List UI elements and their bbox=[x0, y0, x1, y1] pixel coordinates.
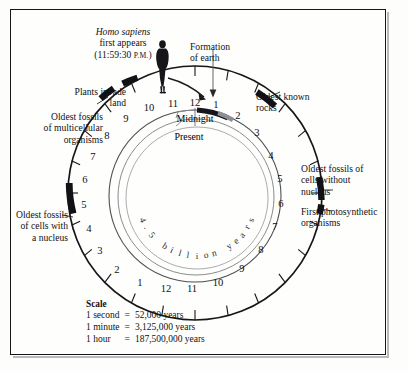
hour-number-12-bottom: 12 bbox=[161, 283, 172, 294]
scale-equals: = bbox=[125, 322, 135, 334]
without-nucleus-line3: nucleus bbox=[301, 186, 363, 197]
scale-equals: = bbox=[125, 334, 135, 346]
scale-title: Scale bbox=[86, 299, 205, 309]
annotation-homo-sapiens: Homo sapiens first appears (11:59:30 P.M… bbox=[76, 26, 170, 61]
annotation-cells-with-nucleus: Oldest fossils of cells with a nucleus bbox=[0, 209, 68, 243]
marker-cells-with-nucleus bbox=[69, 183, 73, 214]
hour-number-1a: 1 bbox=[213, 99, 218, 110]
photosynthetic-line1: First photosynthetic bbox=[301, 206, 377, 217]
scale-equals: = bbox=[125, 310, 135, 322]
scale-row: 1 second=52,000 years bbox=[86, 310, 205, 322]
formation-line2: of earth bbox=[190, 52, 230, 63]
hour-number-5b: 5 bbox=[81, 199, 86, 210]
scale-value: 52,000 years bbox=[135, 310, 205, 322]
photosynthetic-line2: organisms bbox=[301, 217, 377, 228]
hour-number-5a: 5 bbox=[277, 173, 282, 184]
hour-number-9b: 9 bbox=[123, 113, 128, 124]
hour-number-2b: 2 bbox=[114, 264, 119, 275]
hour-number-12-top: 12 bbox=[190, 97, 201, 108]
annotation-multicellular: Oldest fossils of multicellular organism… bbox=[8, 111, 103, 145]
plants-line1: Plants invade bbox=[26, 86, 126, 97]
hour-number-3b: 3 bbox=[97, 245, 102, 256]
hour-number-6a: 6 bbox=[278, 198, 283, 209]
scale-unit: 1 second bbox=[86, 310, 125, 322]
without-nucleus-line2: cells without bbox=[301, 174, 363, 185]
hour-number-10a: 10 bbox=[213, 277, 224, 288]
scale-block: Scale 1 second=52,000 years1 minute=3,12… bbox=[86, 299, 205, 346]
homo-sapiens-line1: Homo sapiens bbox=[76, 26, 170, 37]
nucleus-cells-line3: a nucleus bbox=[0, 232, 68, 243]
multicellular-line2: of multicellular bbox=[8, 122, 103, 133]
hour-number-7b: 7 bbox=[90, 151, 95, 162]
homo-sapiens-time-open: (11:59:30 bbox=[94, 49, 133, 60]
hour-number-10b: 10 bbox=[144, 102, 155, 113]
hour-number-4b: 4 bbox=[86, 223, 91, 234]
annotation-plants-invade-land: Plants invade land bbox=[26, 86, 126, 109]
homo-sapiens-time-close: ) bbox=[148, 49, 151, 60]
hour-number-9a: 9 bbox=[239, 263, 244, 274]
annotation-formation-of-earth: Formation of earth bbox=[190, 41, 230, 64]
annotation-oldest-rocks: Oldest known rocks bbox=[256, 91, 310, 114]
marker-plants-invade-land bbox=[123, 78, 138, 84]
diagram-page: 12 1 2 3 4 5 6 7 8 9 10 11 12 1 2 3 4 5 … bbox=[0, 0, 408, 372]
scale-value: 187,500,000 years bbox=[135, 334, 205, 346]
annotation-cells-without-nucleus: Oldest fossils of cells without nucleus bbox=[301, 163, 363, 197]
hour-number-1b: 1 bbox=[137, 277, 142, 288]
hour-number-11a: 11 bbox=[187, 283, 197, 294]
oldest-rocks-line2: rocks bbox=[256, 102, 310, 113]
nucleus-cells-line1: Oldest fossils bbox=[0, 209, 68, 220]
arc-char: i bbox=[196, 251, 199, 261]
without-nucleus-line1: Oldest fossils of bbox=[301, 163, 363, 174]
hour-number-3a: 3 bbox=[254, 127, 259, 138]
multicellular-line1: Oldest fossils bbox=[8, 111, 103, 122]
annotation-photosynthetic: First photosynthetic organisms bbox=[301, 206, 377, 229]
oldest-rocks-line1: Oldest known bbox=[256, 91, 310, 102]
scale-row: 1 hour=187,500,000 years bbox=[86, 334, 205, 346]
plants-line2: land bbox=[26, 97, 126, 108]
formation-line1: Formation bbox=[190, 41, 230, 52]
hour-number-8b: 8 bbox=[104, 130, 109, 141]
homo-sapiens-line2: first appears bbox=[76, 37, 170, 48]
scale-unit: 1 hour bbox=[86, 334, 125, 346]
homo-sapiens-line3: (11:59:30 P.M.) bbox=[76, 49, 170, 61]
hour-number-2a: 2 bbox=[235, 110, 240, 121]
hour-number-6b: 6 bbox=[82, 174, 87, 185]
hour-number-8a: 8 bbox=[258, 244, 263, 255]
homo-sapiens-arrow bbox=[168, 78, 204, 97]
midnight-label: Midnight bbox=[176, 113, 213, 124]
multicellular-line3: organisms bbox=[8, 134, 103, 145]
scale-unit: 1 minute bbox=[86, 322, 125, 334]
scale-row: 1 minute=3,125,000 years bbox=[86, 322, 205, 334]
hour-number-7a: 7 bbox=[272, 221, 277, 232]
hour-number-11b: 11 bbox=[168, 98, 178, 109]
scale-value: 3,125,000 years bbox=[135, 322, 205, 334]
arc-char: o bbox=[203, 250, 209, 261]
homo-sapiens-time-pm: P.M. bbox=[134, 51, 149, 60]
present-label: Present bbox=[175, 131, 204, 142]
formation-arrow-head bbox=[210, 90, 217, 98]
spiral-inner-ring bbox=[126, 127, 268, 269]
scale-table: 1 second=52,000 years1 minute=3,125,000 … bbox=[86, 310, 205, 346]
nucleus-cells-line2: of cells with bbox=[0, 220, 68, 231]
hour-number-4a: 4 bbox=[268, 150, 273, 161]
